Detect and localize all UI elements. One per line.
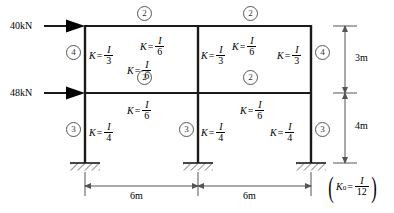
k-symbol: K	[277, 51, 284, 61]
horizontal-dimension-line	[85, 172, 311, 196]
dim-label-height-lower: 4m	[355, 121, 368, 131]
k-symbol: K	[240, 106, 247, 116]
equals-sign: =	[209, 128, 215, 138]
k-symbol: K	[201, 128, 208, 138]
k-symbol: K	[89, 128, 96, 138]
equals-sign: =	[209, 51, 215, 61]
stiffness-mid-left-beam: K = I 6	[127, 60, 151, 81]
fixed-supports	[70, 163, 326, 171]
load-arrow-head-mid	[66, 87, 85, 100]
left-parenthesis: (	[328, 176, 334, 198]
k-symbol: K	[127, 106, 134, 116]
fraction: I 6	[142, 60, 151, 81]
k-symbol: K	[127, 66, 134, 76]
equals-sign: =	[278, 128, 284, 138]
equals-sign: =	[97, 51, 103, 61]
stiffness-bot-mid-column: K = I 4	[201, 122, 225, 143]
stiffness-bot-left-column: K = I 4	[89, 122, 113, 143]
equals-sign: =	[148, 42, 154, 52]
marker-lower-mid: 3	[179, 122, 194, 137]
marker-upper-left: 4	[66, 45, 81, 60]
dim-label-span-left: 6m	[130, 191, 143, 201]
fraction: I 3	[104, 45, 113, 66]
stiffness-upper-mid-left: K = I 3	[201, 45, 225, 66]
support-hatch-left	[70, 164, 100, 171]
load-arrow-head-top	[66, 20, 85, 33]
equals-sign: =	[135, 106, 141, 116]
equals-sign: =	[248, 106, 254, 116]
marker-upper-right: 4	[315, 45, 330, 60]
stiffness-top-left-column: K = I 3	[89, 45, 113, 66]
fraction: I 4	[216, 122, 225, 143]
fraction: I 6	[255, 100, 264, 121]
marker-mid-beam-right: 2	[243, 70, 258, 85]
equals-sign: =	[240, 42, 246, 52]
stiffness-lower-left-beam: K = I 6	[127, 100, 151, 121]
k-symbol: K	[201, 51, 208, 61]
marker-top-beam-left: 2	[137, 6, 152, 21]
right-parenthesis: )	[371, 176, 377, 198]
load-label-top: 40kN	[10, 21, 32, 31]
equals-sign: =	[97, 128, 103, 138]
stiffness-top-right-column: K = I 3	[277, 45, 301, 66]
marker-lower-left: 3	[66, 122, 81, 137]
k0-symbol: K	[336, 182, 343, 192]
fraction: I 6	[247, 36, 256, 57]
fraction: I 6	[142, 100, 151, 121]
stiffness-upper-right-beam: K = I 6	[232, 36, 256, 57]
equals-sign: =	[285, 51, 291, 61]
equals-sign: =	[135, 66, 141, 76]
vertical-dimension-line	[333, 26, 357, 163]
reference-stiffness-expression: K0 = I 12	[336, 176, 369, 197]
k-symbol: K	[270, 128, 277, 138]
dim-label-span-right: 6m	[243, 191, 256, 201]
fraction: I 4	[104, 122, 113, 143]
reference-stiffness-note: ( K0 = I 12 )	[326, 176, 379, 198]
k-symbol: K	[140, 42, 147, 52]
k0-subscript: 0	[343, 185, 347, 192]
fraction: I 3	[216, 45, 225, 66]
marker-top-beam-right: 2	[243, 6, 258, 21]
load-label-mid: 48kN	[10, 88, 32, 98]
load-arrows	[44, 20, 85, 100]
fraction: I 12	[355, 176, 369, 197]
fraction: I 3	[292, 45, 301, 66]
support-hatch-middle	[183, 164, 213, 171]
stiffness-lower-right-beam: K = I 6	[240, 100, 264, 121]
equals-sign: =	[347, 182, 353, 192]
support-hatch-right	[296, 164, 326, 171]
stiffness-bot-right-column: K = I 4	[270, 122, 294, 143]
marker-lower-right: 3	[315, 122, 330, 137]
stiffness-top-mid-column: K = I 6	[140, 36, 164, 57]
k-symbol: K	[232, 42, 239, 52]
fraction: I 4	[285, 122, 294, 143]
dim-label-height-upper: 3m	[355, 53, 368, 63]
k-symbol: K	[89, 51, 96, 61]
fraction: I 6	[155, 36, 164, 57]
